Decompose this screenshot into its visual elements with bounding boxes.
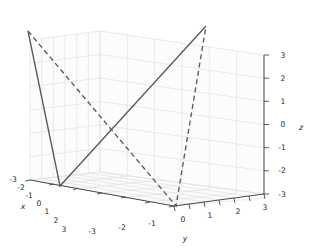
- x-tick-label: 1: [45, 207, 50, 216]
- x-tick-label: -1: [25, 191, 33, 200]
- z-tick-label: -3: [278, 190, 286, 199]
- z-tick-label: -1: [278, 143, 286, 152]
- x-axis-label: x: [20, 202, 26, 211]
- z-tick-label: 2: [281, 74, 286, 83]
- y-tick-label: 1: [208, 211, 213, 220]
- y-tick-label: -3: [88, 227, 96, 236]
- z-axis-label: z: [298, 123, 304, 132]
- x-tick-label: 2: [54, 216, 59, 225]
- z-tick-label: 0: [281, 120, 286, 129]
- y-tick-labels: -3 -2 -1 0 1 2 3: [88, 203, 267, 236]
- z-tick-label: -2: [278, 166, 286, 175]
- z-tick-label: 3: [281, 51, 286, 60]
- y-tick-label: -1: [148, 219, 156, 228]
- z-tick-labels: 3 2 1 0 -1 -2 -3: [278, 51, 286, 199]
- z-axis-ticks: [264, 55, 269, 194]
- x-tick-label: 0: [37, 199, 42, 208]
- y-tick-label: 2: [236, 207, 241, 216]
- x-tick-label: 3: [62, 225, 67, 234]
- z-tick-label: 1: [281, 97, 286, 106]
- matplotlib-figure: -3 -2 -1 0 1 2 3 -3 -2 -1 0 1 2 3 3 2 1 …: [0, 0, 314, 248]
- plot-3d-axes: -3 -2 -1 0 1 2 3 -3 -2 -1 0 1 2 3 3 2 1 …: [0, 0, 314, 248]
- x-tick-label: -3: [9, 175, 17, 184]
- y-axis-label: y: [182, 234, 188, 243]
- x-tick-label: -2: [17, 183, 25, 192]
- y-tick-label: -2: [118, 223, 126, 232]
- y-tick-label: 3: [263, 203, 268, 212]
- y-tick-label: 0: [181, 215, 186, 224]
